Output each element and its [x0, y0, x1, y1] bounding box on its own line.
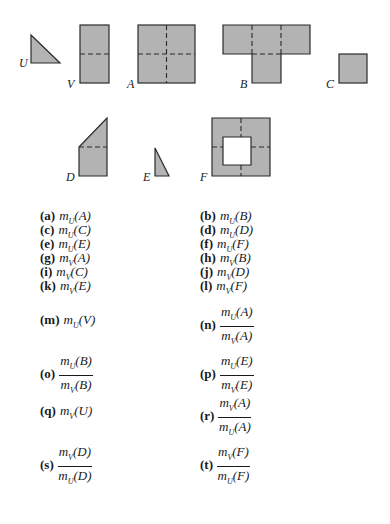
- exercise-tag: (c): [40, 222, 54, 237]
- measure-expression: mV(B): [220, 250, 251, 265]
- figure-shapes: [0, 0, 390, 200]
- label-U: U: [19, 56, 28, 71]
- exercise-item: (q)mV(U): [40, 403, 92, 424]
- exercise-item: (l)mV(F): [200, 278, 247, 299]
- measure-expression: mV(U): [60, 403, 92, 418]
- exercise-item: (p)mU(E)mV(E): [200, 353, 254, 397]
- label-D: D: [66, 170, 75, 185]
- label-C: C: [326, 77, 334, 92]
- measure-expression: mV(A): [59, 250, 90, 265]
- shape-U: [31, 35, 60, 63]
- exercise-tag: (f): [200, 236, 213, 251]
- measure-expression: mU(F): [217, 236, 249, 251]
- measure-expression: mU(A): [221, 304, 253, 319]
- measure-expression: mV(D): [217, 264, 249, 279]
- measure-expression: mU(V): [64, 312, 96, 327]
- label-V: V: [67, 77, 74, 92]
- measure-expression: mU(B): [60, 353, 92, 368]
- exercise-tag: (q): [40, 403, 56, 418]
- measure-expression: mV(F): [218, 444, 249, 459]
- exercise-item: (n)mU(A)mV(A): [200, 304, 254, 348]
- measure-expression: mU(A): [59, 208, 91, 223]
- measure-expression: mV(A): [221, 328, 252, 343]
- measure-expression: mV(B): [61, 377, 92, 392]
- exercise-tag: (l): [200, 278, 212, 293]
- shape-C: [339, 54, 367, 83]
- shape-B: [223, 25, 310, 83]
- exercise-tag: (t): [200, 457, 213, 472]
- measure-expression: mU(D): [58, 468, 91, 483]
- measure-expression: mV(A): [219, 395, 250, 410]
- exercise-tag: (m): [40, 312, 60, 327]
- exercise-item: (s)mV(D)mU(D): [40, 444, 92, 488]
- measure-expression: mV(F): [216, 278, 247, 293]
- exercise-tag: (e): [40, 236, 54, 251]
- fraction: mU(A)mV(A): [220, 304, 254, 348]
- measure-expression: mU(C): [58, 222, 91, 237]
- exercise-item: (r)mV(A)mU(A): [200, 395, 251, 439]
- exercise-tag: (p): [200, 366, 216, 381]
- exercise-item: (t)mV(F)mU(F): [200, 444, 250, 488]
- shape-E: [155, 148, 169, 176]
- fraction: mU(E)mV(E): [220, 353, 254, 397]
- exercise-tag: (h): [200, 250, 216, 265]
- exercise-tag: (b): [200, 208, 216, 223]
- fraction: mV(F)mU(F): [217, 444, 250, 488]
- exercise-tag: (s): [40, 457, 54, 472]
- fraction: mU(B)mV(B): [59, 353, 93, 397]
- exercise-tag: (r): [200, 408, 214, 423]
- label-B: B: [240, 77, 247, 92]
- measure-expression: mV(C): [56, 264, 88, 279]
- label-A: A: [127, 77, 134, 92]
- fraction: mV(A)mU(A): [218, 395, 251, 439]
- exercise-tag: (n): [200, 317, 216, 332]
- exercise-tag: (i): [40, 264, 52, 279]
- exercise-tag: (d): [200, 222, 216, 237]
- fraction: mV(D)mU(D): [58, 444, 92, 488]
- measure-expression: mU(F): [218, 468, 250, 483]
- exercise-tag: (a): [40, 208, 55, 223]
- measure-expression: mV(E): [60, 278, 91, 293]
- exercise-tag: (j): [200, 264, 213, 279]
- label-F: F: [200, 170, 207, 185]
- exercise-item: (k)mV(E): [40, 278, 91, 299]
- measure-expression: mU(E): [58, 236, 90, 251]
- measure-expression: mV(D): [59, 444, 91, 459]
- measure-expression: mU(D): [220, 222, 253, 237]
- label-E: E: [143, 170, 150, 185]
- measure-expression: mU(A): [219, 419, 251, 434]
- measure-expression: mU(B): [220, 208, 252, 223]
- exercise-item: (m)mU(V): [40, 312, 95, 333]
- exercise-tag: (k): [40, 278, 56, 293]
- exercise-tag: (o): [40, 366, 55, 381]
- measure-expression: mV(E): [221, 377, 252, 392]
- measure-expression: mU(E): [221, 353, 253, 368]
- exercise-item: (o)mU(B)mV(B): [40, 353, 93, 397]
- exercise-tag: (g): [40, 250, 55, 265]
